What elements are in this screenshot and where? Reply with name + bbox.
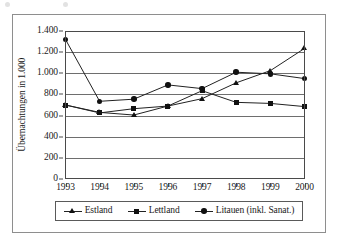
y-axis-tick-labels: 02004006008001.0001.2001.400 <box>13 31 63 179</box>
legend-item-estland[interactable]: Estland <box>64 206 113 216</box>
y-tick-mark <box>59 136 63 137</box>
y-tick-mark <box>59 31 63 32</box>
triangle-marker-icon <box>64 207 82 215</box>
x-tick-mark <box>202 183 203 187</box>
y-tick-mark <box>59 52 63 53</box>
y-tick-label: 400 <box>44 132 58 142</box>
legend-label: Litauen (inkl. Sanat.) <box>216 206 295 216</box>
x-tick-mark <box>100 183 101 187</box>
square-marker-icon <box>128 207 146 215</box>
y-tick-mark <box>59 157 63 158</box>
x-tick-mark <box>134 183 135 187</box>
y-tick-mark <box>59 94 63 95</box>
legend-item-litauen-inkl-sanat[interactable]: Litauen (inkl. Sanat.) <box>195 206 295 216</box>
y-tick-label: 1.400 <box>37 26 58 36</box>
x-tick-mark <box>236 183 237 187</box>
y-tick-mark <box>59 179 63 180</box>
series-markers <box>65 31 305 179</box>
y-tick-label: 800 <box>44 90 58 100</box>
x-axis-tick-labels: 19931994199519961997199819992000 <box>65 183 305 197</box>
chart-figure: Übernachtungen in 1.000 02004006008001.0… <box>12 14 326 233</box>
y-tick-mark <box>59 73 63 74</box>
legend-item-lettland[interactable]: Lettland <box>128 206 180 216</box>
x-tick-mark <box>305 183 306 187</box>
legend-label: Estland <box>85 206 113 216</box>
y-tick-label: 1.000 <box>37 69 58 79</box>
y-tick-label: 1.200 <box>37 47 58 57</box>
chart-legend: EstlandLettlandLitauen (inkl. Sanat.) <box>55 201 303 221</box>
scan-speckle <box>63 2 68 7</box>
plot-area <box>65 31 305 179</box>
y-tick-mark <box>59 115 63 116</box>
x-tick-mark <box>168 183 169 187</box>
circle-marker-icon <box>195 207 213 215</box>
legend-label: Lettland <box>149 206 180 216</box>
y-tick-label: 200 <box>44 153 58 163</box>
x-tick-mark <box>66 183 67 187</box>
scan-speckle <box>5 2 10 7</box>
x-tick-mark <box>270 183 271 187</box>
y-tick-label: 600 <box>44 111 58 121</box>
